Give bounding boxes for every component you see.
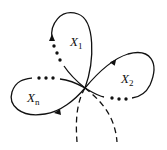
arrow-icon-x2: [110, 59, 118, 66]
arrow-icon-x1: [49, 34, 55, 41]
loop-x1-return: [64, 66, 85, 88]
loops-diagram: X1 X2 Xn: [0, 0, 167, 150]
label-x1: X1: [69, 34, 82, 51]
label-xn: Xn: [26, 90, 40, 107]
loop-xn: [11, 78, 85, 115]
loop-xn-return: [60, 79, 85, 88]
loop-x2: [85, 53, 154, 98]
diagram-canvas: X1 X2 Xn: [0, 0, 167, 150]
label-x2: X2: [120, 71, 133, 88]
